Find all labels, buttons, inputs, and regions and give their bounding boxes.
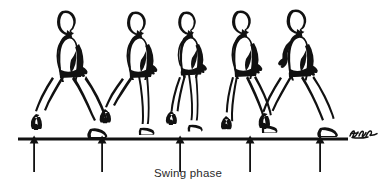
gait-figure-3 — [166, 12, 207, 132]
gait-figure-1 — [31, 11, 107, 139]
gait-illustration: Swing phase — [0, 0, 390, 192]
gait-diagram-canvas — [0, 0, 390, 192]
artist-signature — [350, 131, 377, 138]
gait-figure-5 — [259, 10, 338, 137]
ground-line — [18, 138, 348, 141]
figure-caption: Swing phase — [0, 167, 390, 179]
gait-figure-2 — [100, 12, 158, 136]
gait-figure-4 — [221, 11, 278, 134]
caption-text: Swing phase — [154, 167, 222, 179]
